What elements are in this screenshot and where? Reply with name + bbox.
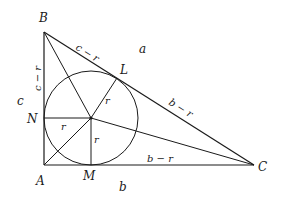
side-label-c: c — [17, 94, 24, 108]
side-BC — [44, 32, 254, 165]
side-label-a: a — [139, 42, 146, 56]
segment-label-BL: c − r — [74, 41, 102, 64]
radius-label-IL: r — [105, 95, 111, 106]
point-label-N: N — [26, 112, 38, 126]
point-label-M: M — [82, 169, 96, 183]
vertex-label-B: B — [38, 11, 48, 25]
side-label-b: b — [119, 180, 127, 194]
vertex-label-A: A — [35, 174, 45, 188]
point-label-L: L — [119, 63, 128, 77]
radius-IL — [91, 78, 117, 118]
vertex-label-C: C — [258, 160, 267, 174]
radius-label-IN: r — [61, 121, 67, 132]
incenter-point — [89, 116, 92, 119]
segment-label-LC: b − r — [167, 96, 196, 120]
bisector-A — [44, 118, 91, 165]
triangle-incircle-diagram: B A C N M L a b c c − r c − r b − r b − … — [0, 0, 282, 203]
radius-label-IM: r — [94, 134, 100, 145]
segment-label-MC: b − r — [147, 153, 174, 164]
segment-label-BN: c − r — [32, 65, 43, 91]
